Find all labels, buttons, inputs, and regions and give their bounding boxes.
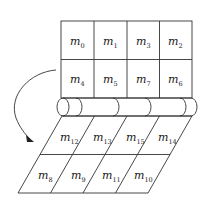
cell-label: m0 [70,35,85,50]
cell-label: m7 [136,73,151,88]
cell-label: m2 [168,35,183,50]
cell-label: m4 [70,73,85,88]
cell-label: m13 [93,131,112,146]
cell-label: m9 [71,169,86,184]
cell-label: m5 [103,73,118,88]
folded-karnaugh-map: m0 m1 m3 m2 m4 m5 m7 m6 m12 m13 m15 m14 … [0,0,211,209]
arrowhead-icon [26,135,34,142]
cell-label: m10 [134,169,153,184]
cell-label: m14 [158,131,177,146]
cell-label: m3 [136,35,151,50]
curved-arrow-icon [14,70,56,139]
top-grid-labels: m0 m1 m3 m2 m4 m5 m7 m6 [70,35,183,88]
cell-label: m1 [103,35,118,50]
cylinder-end-cap [57,98,69,116]
bottom-grid-labels: m12 m13 m15 m14 m8 m9 m11 m10 [38,131,177,184]
fold-arrow [14,70,56,142]
cell-label: m6 [168,73,183,88]
cell-label: m15 [126,131,145,146]
cell-label: m11 [102,169,121,184]
cell-label: m8 [38,169,53,184]
cell-label: m12 [60,131,79,146]
fold-cylinder [57,98,197,116]
